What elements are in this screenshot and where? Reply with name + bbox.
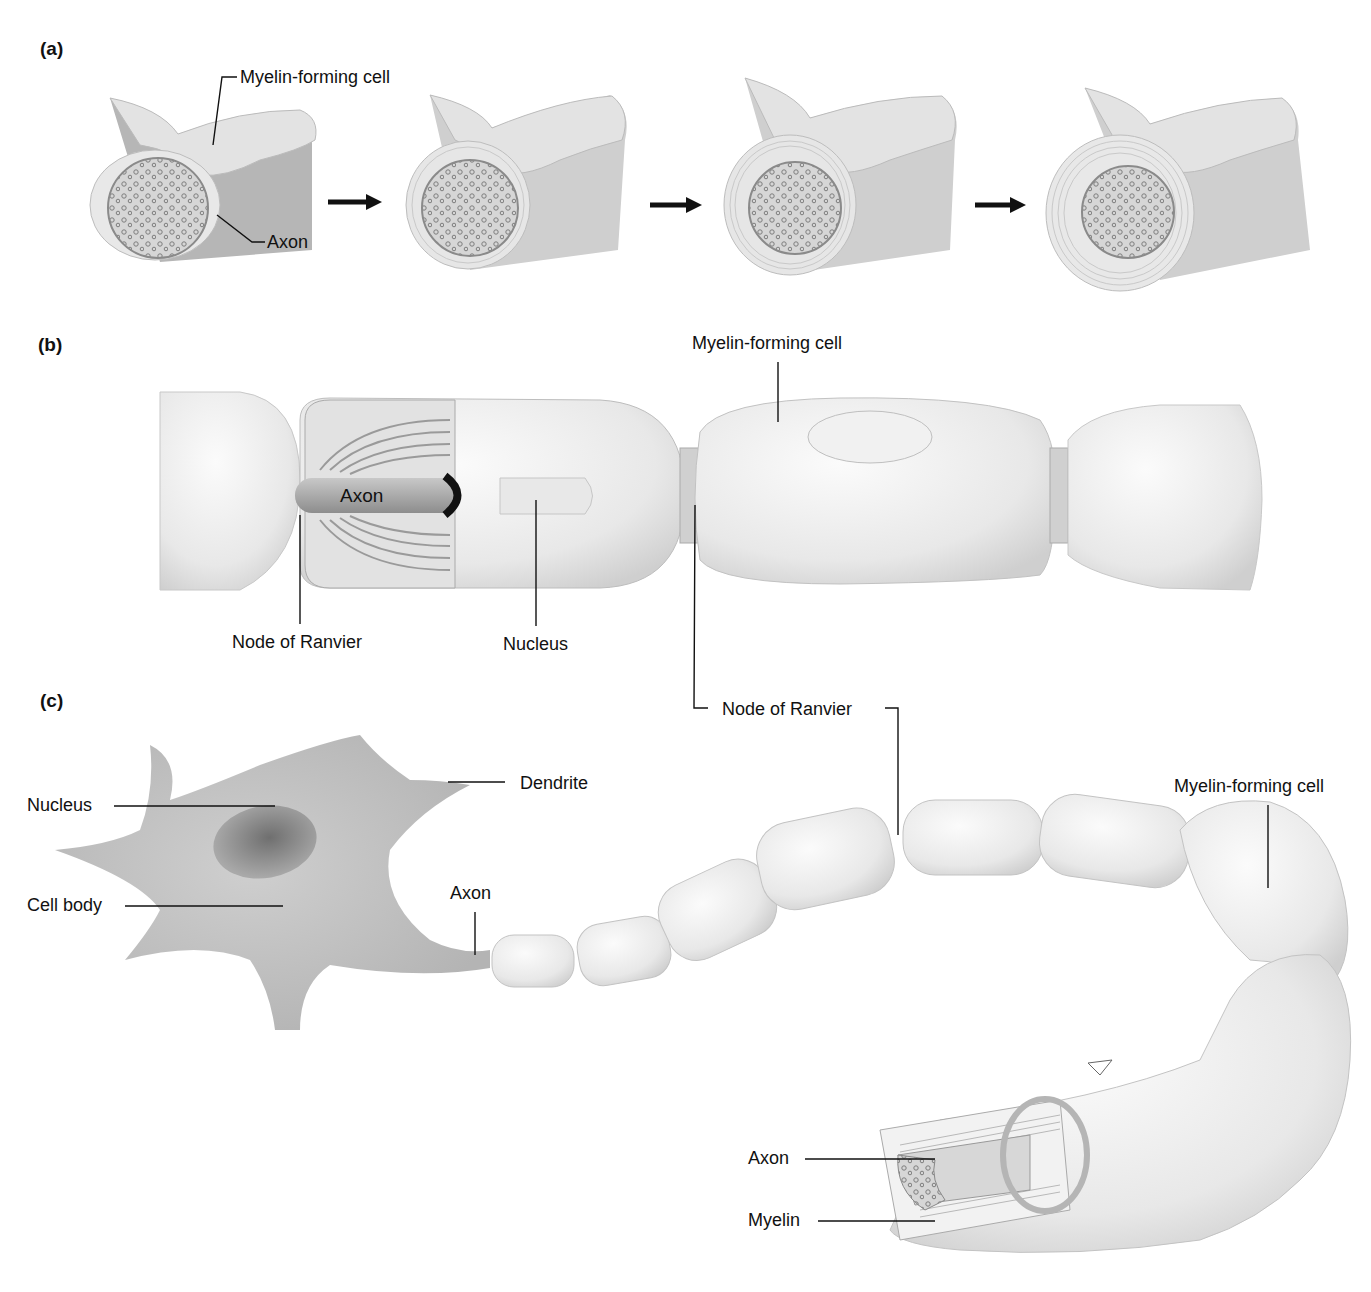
label-nucleus-c: Nucleus: [27, 796, 92, 814]
neuron-cell-body: [55, 735, 490, 1030]
panel-b-segment-middle: [695, 398, 1055, 584]
panel-b-segment-left: [160, 392, 300, 590]
panel-a-stage-2: [406, 95, 627, 270]
label-myelin-forming-cell-c: Myelin-forming cell: [1174, 777, 1324, 795]
myelination-diagram-artwork: [0, 0, 1371, 1292]
panel-b-node-2: [1050, 448, 1068, 543]
label-cutaway-axon: Axon: [748, 1149, 789, 1167]
label-myelin-forming-cell-b: Myelin-forming cell: [692, 334, 842, 352]
nucleus-shape: [500, 478, 593, 514]
label-node-of-ranvier-shared: Node of Ranvier: [722, 700, 852, 718]
label-axon-c: Axon: [450, 884, 491, 902]
nucleus-bulge: [808, 411, 932, 463]
label-axon-a: Axon: [267, 233, 308, 251]
arrow-icon: [650, 197, 702, 213]
label-myelin-forming-cell-a: Myelin-forming cell: [240, 68, 390, 86]
label-dendrite: Dendrite: [520, 774, 588, 792]
arrow-icon: [975, 197, 1026, 213]
panel-label-a: (a): [40, 38, 63, 60]
label-cell-body: Cell body: [27, 896, 102, 914]
label-node-of-ranvier-b: Node of Ranvier: [232, 633, 362, 651]
panel-a-stage-3: [724, 78, 957, 275]
label-myelin: Myelin: [748, 1211, 800, 1229]
panel-b-segment-right: [1068, 405, 1262, 590]
arrow-icon: [328, 194, 382, 210]
label-nucleus-b: Nucleus: [503, 635, 568, 653]
panel-label-c: (c): [40, 690, 63, 712]
panel-a-stage-4: [1046, 88, 1310, 291]
panel-label-b: (b): [38, 334, 62, 356]
label-axon-b: Axon: [340, 486, 383, 505]
